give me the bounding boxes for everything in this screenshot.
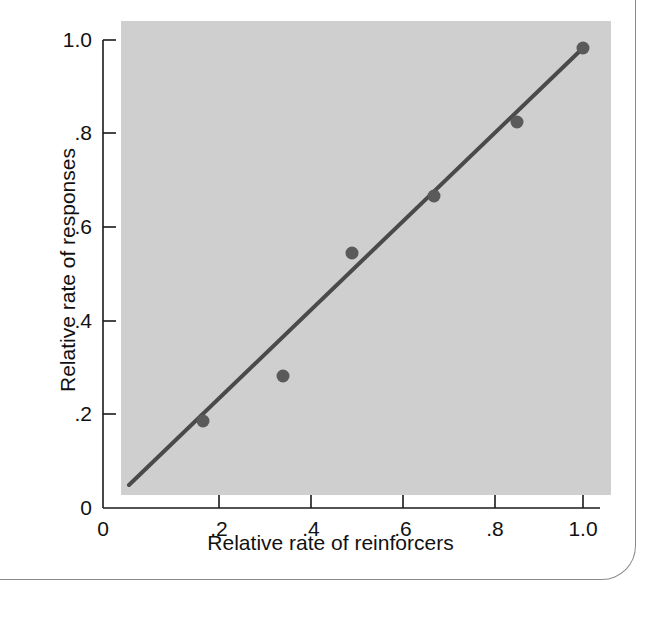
y-axis-ticks (103, 40, 116, 414)
data-point (577, 42, 590, 55)
data-point (428, 190, 441, 203)
y-tick-label-1.0: 1.0 (20, 28, 92, 52)
y-axis-title: Relative rate of responses (56, 60, 80, 480)
data-point (197, 415, 210, 428)
data-point (511, 116, 524, 129)
data-point (277, 370, 290, 383)
x-axis-title: Relative rate of reinforcers (0, 531, 661, 555)
figure-container: 1.0 .8 .6 .4 .2 0 0 .2 .4 .6 .8 1.0 Rela… (0, 0, 661, 618)
data-point (346, 247, 359, 260)
x-axis-ticks (219, 495, 583, 508)
